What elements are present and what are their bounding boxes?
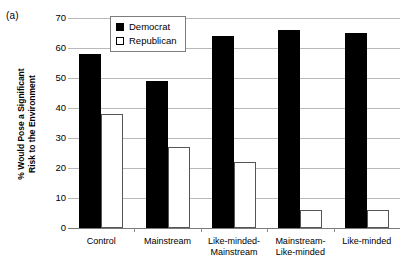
figure-panel-a: (a) % Would Pose a Significant Risk to t… — [0, 0, 407, 273]
legend-swatch-democrat-icon — [116, 23, 124, 31]
x-tick-mark-4 — [334, 228, 335, 232]
x-tick-mark-2 — [201, 228, 202, 232]
y-tick-label-60: 60 — [40, 43, 66, 53]
bar-democrat-like-minded-mainstream — [212, 36, 234, 228]
x-label-line-2: Like-minded — [267, 247, 333, 258]
y-tick-label-0: 0 — [40, 223, 66, 233]
x-axis-label-control: Control — [68, 236, 134, 247]
y-tick-label-40: 40 — [40, 103, 66, 113]
y-tick-label-20: 20 — [40, 163, 66, 173]
bar-democrat-mainstream — [146, 81, 168, 228]
y-axis-title: % Would Pose a Significant Risk to the E… — [14, 18, 40, 230]
x-label-line-1: Mainstream- — [267, 236, 333, 247]
legend-item-democrat: Democrat — [116, 20, 177, 34]
y-axis-title-line-1: % Would Pose a Significant — [16, 68, 27, 179]
y-axis-title-line-2: Risk to the Environment — [27, 68, 38, 179]
bar-republican-control — [101, 114, 123, 228]
x-axis-label-like-minded-mainstream: Like-minded-Mainstream — [201, 236, 267, 258]
x-label-line-1: Like-minded- — [201, 236, 267, 247]
y-tick-label-30: 30 — [40, 133, 66, 143]
legend-item-republican: Republican — [116, 34, 177, 48]
y-tick-label-10: 10 — [40, 193, 66, 203]
y-tick-label-70: 70 — [40, 13, 66, 23]
x-tick-mark-3 — [267, 228, 268, 232]
bar-republican-mainstream-like-minded — [300, 210, 322, 228]
x-axis-label-like-minded: Like-minded — [334, 236, 400, 247]
bar-democrat-like-minded — [345, 33, 367, 228]
legend-label-democrat: Democrat — [129, 22, 170, 32]
bar-republican-mainstream — [168, 147, 190, 228]
legend-label-republican: Republican — [129, 36, 177, 46]
x-axis-label-mainstream-like-minded: Mainstream-Like-minded — [267, 236, 333, 258]
legend: Democrat Republican — [110, 16, 186, 52]
x-label-line-1: Mainstream — [134, 236, 200, 247]
x-label-line-1: Like-minded — [334, 236, 400, 247]
y-tick-label-50: 50 — [40, 73, 66, 83]
x-tick-mark-1 — [134, 228, 135, 232]
x-axis-label-mainstream: Mainstream — [134, 236, 200, 247]
bar-republican-like-minded — [367, 210, 389, 228]
x-label-line-1: Control — [68, 236, 134, 247]
x-label-line-2: Mainstream — [201, 247, 267, 258]
legend-swatch-republican-icon — [116, 37, 124, 45]
bar-democrat-mainstream-like-minded — [278, 30, 300, 228]
bar-democrat-control — [79, 54, 101, 228]
gridline-0 — [68, 228, 400, 229]
bar-republican-like-minded-mainstream — [234, 162, 256, 228]
